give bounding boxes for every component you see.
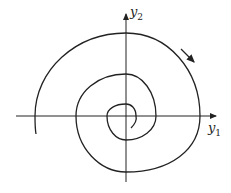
- y1-axis-label: y1: [208, 120, 221, 138]
- direction-arrow: [181, 49, 194, 62]
- phase-portrait: [0, 0, 231, 193]
- y2-axis-label: y2: [130, 4, 143, 22]
- spiral-trajectory: [35, 33, 200, 172]
